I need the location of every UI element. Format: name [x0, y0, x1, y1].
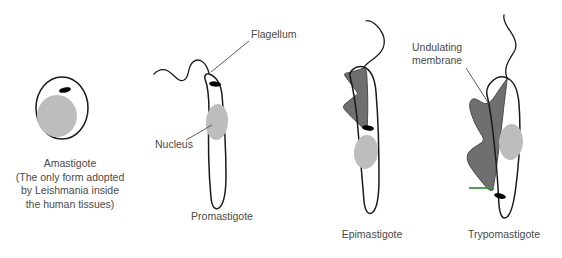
flagellum-label: Flagellum: [251, 28, 297, 41]
page-bottom-text-sliver: [0, 250, 562, 258]
undulating-membrane-label-line1: Undulating: [412, 41, 462, 54]
amastigote-caption-line-1: Amastigote: [16, 157, 125, 171]
undulating-membrane-label-line2: membrane: [412, 54, 462, 67]
epimastigote-flagellum: [364, 21, 384, 67]
undulating-membrane-leader-line: [466, 68, 489, 104]
trypomastigote-caption: Trypomastigote: [468, 228, 540, 242]
amastigote-nucleus: [37, 95, 77, 137]
epimastigote-caption-line-1: Epimastigote: [342, 228, 403, 242]
promastigote-caption-line-1: Promastigote: [191, 210, 253, 224]
epimastigote-caption: Epimastigote: [342, 228, 403, 242]
promastigote-drawing: [154, 60, 229, 209]
promastigote-body-outline: [205, 74, 226, 209]
trypomastigote-flagellum: [504, 15, 516, 78]
trypomastigote-caption-line-1: Trypomastigote: [468, 228, 540, 242]
parasite-morphology-figure: Flagellum Nucleus Undulating membrane Am…: [0, 0, 562, 258]
amastigote-caption: Amastigote (The only form adopted by Lei…: [16, 157, 125, 211]
flagellum-leader-line: [211, 41, 249, 72]
promastigote-flagellum: [154, 60, 209, 81]
amastigote-caption-line-4: the human tissues): [16, 198, 125, 212]
nucleus-label: Nucleus: [155, 138, 193, 151]
epimastigote-drawing: [344, 21, 385, 214]
amastigote-caption-line-2: (The only form adopted: [16, 171, 125, 185]
trypomastigote-drawing: [467, 15, 524, 218]
promastigote-caption: Promastigote: [191, 210, 253, 224]
amastigote-drawing: [36, 77, 88, 139]
amastigote-caption-line-3: by Leishmania inside: [16, 184, 125, 198]
